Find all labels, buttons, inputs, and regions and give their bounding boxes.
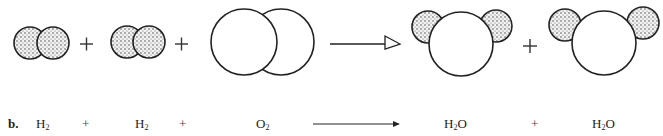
hydrogen-atom bbox=[37, 27, 69, 59]
h2-molecule-1 bbox=[14, 27, 69, 59]
term-h2o-1: H2O bbox=[444, 116, 467, 132]
plus-sign bbox=[80, 38, 93, 51]
term-h2o-2: H2O bbox=[592, 116, 615, 132]
chemical-equation: b. H2 + H2 + O2 H2O + H2O bbox=[0, 116, 663, 136]
term-o2: O2 bbox=[256, 116, 269, 132]
reaction-arrow-icon bbox=[330, 36, 400, 49]
h2o-molecule-2 bbox=[549, 7, 659, 75]
term-h2-2: H2 bbox=[135, 116, 148, 132]
oxygen-atom bbox=[429, 12, 493, 76]
h2o-molecule-1 bbox=[412, 10, 512, 76]
plus-sign: + bbox=[82, 116, 89, 132]
plus-sign bbox=[523, 39, 537, 53]
term-h2-1: H2 bbox=[36, 116, 49, 132]
plus-sign: + bbox=[531, 116, 538, 132]
h2-molecule-2 bbox=[111, 26, 165, 58]
oxygen-atom bbox=[572, 11, 636, 75]
figure-label: b. bbox=[8, 116, 18, 132]
oxygen-atom bbox=[211, 9, 277, 75]
plus-sign: + bbox=[179, 116, 186, 132]
plus-sign bbox=[175, 38, 188, 51]
hydrogen-atom bbox=[133, 26, 165, 58]
molecule-diagram bbox=[0, 0, 663, 110]
equation-arrow-icon bbox=[313, 119, 401, 129]
o2-molecule bbox=[211, 9, 314, 75]
